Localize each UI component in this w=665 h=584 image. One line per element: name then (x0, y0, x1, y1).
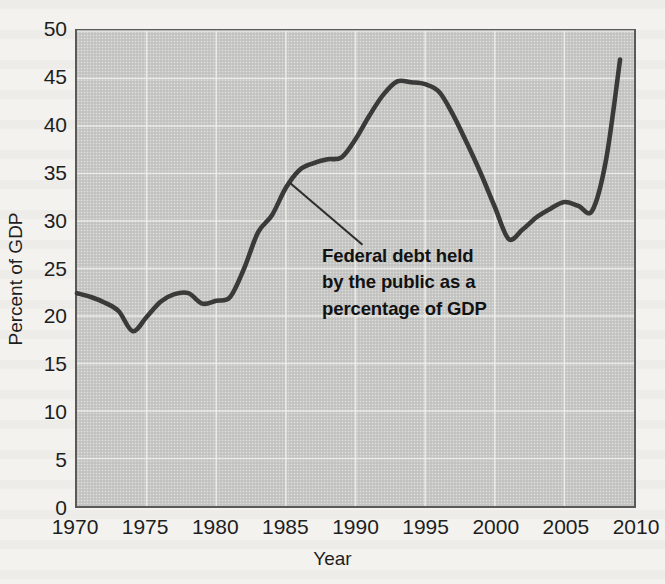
x-tick-1990: 1990 (332, 515, 379, 539)
annotation-line-1: Federal debt held (322, 243, 572, 269)
page-root: 05101520253035404550 1970197519801985199… (0, 0, 665, 584)
annotation-line-3: percentage of GDP (322, 296, 572, 322)
annotation-line-2: by the public as a (322, 269, 572, 295)
annotation-leader-line (290, 183, 362, 245)
x-tick-2005: 2005 (543, 515, 590, 539)
x-tick-1980: 1980 (192, 515, 239, 539)
x-tick-1970: 1970 (52, 515, 99, 539)
x-tick-2010: 2010 (613, 515, 660, 539)
x-tick-1975: 1975 (122, 515, 169, 539)
x-tick-2000: 2000 (472, 515, 519, 539)
annotation-callout: Federal debt held by the public as a per… (322, 243, 572, 322)
line-chart-figure: 05101520253035404550 1970197519801985199… (0, 0, 665, 584)
x-axis-title: Year (0, 548, 665, 570)
x-tick-1985: 1985 (262, 515, 309, 539)
x-tick-1995: 1995 (402, 515, 449, 539)
y-axis-title: Percent of GDP (5, 199, 27, 359)
